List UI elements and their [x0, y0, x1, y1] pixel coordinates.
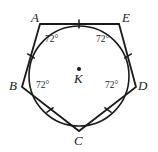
- angle-label-at-e: 72°: [96, 35, 109, 45]
- side-tick-marks: [27, 20, 132, 113]
- angle-label-at-a: 72°: [45, 35, 58, 45]
- center-label-k: K: [74, 72, 83, 85]
- geometry-figure: A E D C B K 72° 72° 72° 72°: [0, 0, 158, 152]
- angle-label-at-b: 72°: [36, 81, 49, 91]
- vertex-label-d: D: [138, 79, 147, 92]
- vertex-label-c: C: [74, 134, 83, 147]
- angle-label-at-d: 72°: [105, 81, 118, 91]
- vertex-label-a: A: [31, 11, 39, 24]
- vertex-label-b: B: [9, 79, 17, 92]
- vertex-label-e: E: [122, 11, 130, 24]
